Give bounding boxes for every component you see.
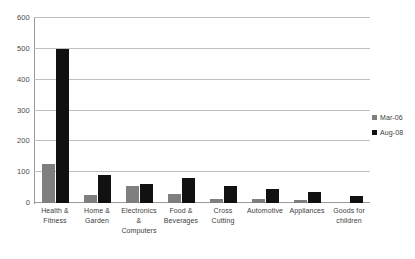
bar <box>84 195 97 203</box>
x-axis-label: Appliances <box>286 206 328 236</box>
bar <box>98 175 111 203</box>
bar <box>126 186 139 203</box>
legend-item: Aug-08 <box>372 129 403 136</box>
bar <box>294 200 307 203</box>
y-axis-tick-label: 300 <box>17 105 30 114</box>
y-axis-tick-label: 200 <box>17 136 30 145</box>
bar <box>42 164 55 203</box>
x-axis-labels: Health &FitnessHome &GardenElectronics &… <box>34 206 370 236</box>
y-axis-tick-label: 0 <box>26 198 30 207</box>
bar <box>266 189 279 203</box>
bar-group <box>202 18 244 203</box>
bar <box>210 199 223 203</box>
x-axis-label: Food &Beverages <box>160 206 202 236</box>
legend-label: Mar-06 <box>380 114 403 121</box>
bar-group <box>118 18 160 203</box>
x-axis-label: Electronics &Computers <box>118 206 160 236</box>
bar <box>168 194 181 203</box>
legend-swatch <box>372 115 377 120</box>
bar <box>182 178 195 203</box>
bar-group <box>76 18 118 203</box>
y-axis-tick-label: 500 <box>17 43 30 52</box>
legend-item: Mar-06 <box>372 114 403 121</box>
bar <box>308 192 321 203</box>
bar <box>56 49 69 203</box>
x-axis-label: CrossCutting <box>202 206 244 236</box>
x-axis-label: Health &Fitness <box>34 206 76 236</box>
y-axis-tick-label: 400 <box>17 74 30 83</box>
legend-swatch <box>372 130 377 135</box>
bar-group <box>34 18 76 203</box>
bar-groups <box>34 18 370 203</box>
x-axis-label: Goods forchildren <box>328 206 370 236</box>
bar-group <box>328 18 370 203</box>
bar <box>350 196 363 203</box>
bar-group <box>244 18 286 203</box>
bar-group <box>160 18 202 203</box>
x-axis-label: Automotive <box>244 206 286 236</box>
chart-legend: Mar-06Aug-08 <box>372 114 403 144</box>
bar <box>224 186 237 203</box>
x-axis-label: Home &Garden <box>76 206 118 236</box>
bar <box>140 184 153 203</box>
plot-area: 0100200300400500600 <box>34 18 370 203</box>
legend-label: Aug-08 <box>380 129 403 136</box>
bar-chart: 0100200300400500600 Health &FitnessHome … <box>0 0 415 259</box>
y-axis-tick-label: 600 <box>17 13 30 22</box>
bar <box>252 199 265 203</box>
y-axis-tick-label: 100 <box>17 167 30 176</box>
bar-group <box>286 18 328 203</box>
